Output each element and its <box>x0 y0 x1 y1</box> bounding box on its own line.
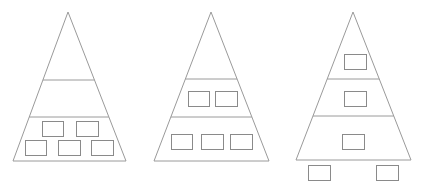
block <box>92 141 114 156</box>
block <box>189 92 210 107</box>
pyramid-2 <box>154 12 269 161</box>
block <box>345 92 367 107</box>
block <box>202 135 224 150</box>
block <box>59 141 81 156</box>
block <box>231 135 253 150</box>
pyramid-1 <box>13 12 126 161</box>
block <box>345 55 367 70</box>
block <box>377 166 399 181</box>
block <box>343 135 365 150</box>
pyramid-outline <box>13 12 126 161</box>
block <box>77 122 99 137</box>
block <box>309 166 331 181</box>
pyramid-diagram <box>0 0 427 188</box>
block <box>172 135 193 150</box>
block <box>216 92 238 107</box>
pyramid-3 <box>296 12 411 181</box>
block <box>26 141 47 156</box>
block <box>43 122 64 137</box>
